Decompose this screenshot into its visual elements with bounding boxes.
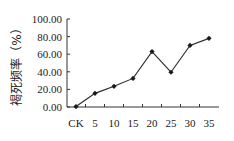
x-tick-label: 30 — [185, 117, 197, 129]
line-chart: 0.0020.0040.0060.0080.00100.00 CK5101520… — [0, 0, 234, 141]
x-tick-label: 10 — [109, 117, 121, 129]
data-point-marker — [111, 84, 116, 89]
x-tick-label: 5 — [92, 117, 98, 129]
data-point-marker — [206, 36, 211, 41]
x-tick-label: 25 — [166, 117, 178, 129]
y-tick-label: 0.00 — [43, 101, 63, 113]
y-axis-label: 褐死频率（%） — [9, 22, 24, 105]
y-tick-label: 60.00 — [37, 48, 62, 60]
y-tick-label: 80.00 — [37, 31, 62, 43]
x-tick-label: 35 — [204, 117, 216, 129]
x-tick-label: CK — [68, 117, 83, 129]
y-axis: 0.0020.0040.0060.0080.00100.00 — [32, 13, 70, 113]
y-tick-label: 40.00 — [37, 66, 62, 78]
y-tick-label: 20.00 — [37, 83, 62, 95]
x-tick-label: 20 — [147, 117, 159, 129]
x-tick-label: 15 — [128, 117, 140, 129]
y-tick-label: 100.00 — [32, 13, 63, 25]
x-axis: CK5101520253035 — [67, 104, 219, 129]
series-line — [73, 36, 211, 109]
